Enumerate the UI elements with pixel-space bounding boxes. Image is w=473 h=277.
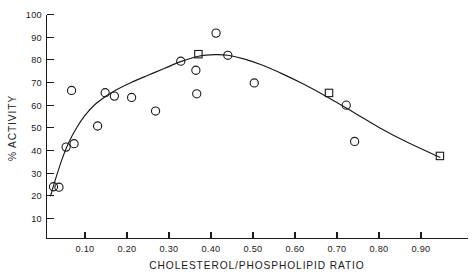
y-axis-tick-labels: 102030405060708090100 [26, 10, 42, 224]
data-point-circle [55, 183, 63, 191]
x-tick-label-0.40: 0.40 [201, 244, 220, 254]
y-tick-label-10: 10 [31, 214, 42, 224]
y-tick-label-90: 90 [31, 33, 42, 43]
axis-lines [47, 15, 469, 239]
x-tick-label-0.20: 0.20 [117, 244, 136, 254]
data-point-circle [110, 92, 118, 100]
y-tick-label-30: 30 [31, 169, 42, 179]
data-point-circle [94, 122, 102, 130]
x-tick-label-0.10: 0.10 [75, 244, 94, 254]
x-axis-tick-labels: 0.100.200.300.400.500.600.700.800.90 [75, 244, 430, 254]
data-point-square [325, 89, 332, 96]
figure-container: 102030405060708090100 0.100.200.300.400.… [0, 0, 473, 277]
data-point-circle [70, 140, 78, 148]
scatter-plot: 102030405060708090100 0.100.200.300.400.… [0, 0, 473, 277]
x-axis-ticks [85, 232, 421, 239]
data-point-circle [193, 90, 201, 98]
data-point-circle [212, 29, 220, 37]
fitted-curve-group [51, 55, 440, 196]
y-tick-label-40: 40 [31, 146, 42, 156]
data-point-circle [101, 89, 109, 97]
y-tick-label-20: 20 [31, 191, 42, 201]
x-tick-label-0.60: 0.60 [285, 244, 304, 254]
y-tick-label-50: 50 [31, 123, 42, 133]
x-axis-title: CHOLESTEROL/PHOSPHOLIPID RATIO [149, 260, 364, 271]
y-axis-title: % ACTIVITY [7, 95, 18, 161]
x-tick-label-0.80: 0.80 [369, 244, 388, 254]
data-point-circle [351, 137, 359, 145]
data-point-circle [250, 79, 258, 87]
x-tick-label-0.90: 0.90 [411, 244, 430, 254]
fitted-curve [51, 55, 440, 196]
y-tick-label-80: 80 [31, 55, 42, 65]
x-tick-label-0.70: 0.70 [327, 244, 346, 254]
data-point-circle [128, 93, 136, 101]
data-points-group [49, 29, 443, 191]
y-tick-label-60: 60 [31, 101, 42, 111]
y-tick-label-70: 70 [31, 78, 42, 88]
data-point-circle [192, 66, 200, 74]
x-tick-label-0.50: 0.50 [243, 244, 262, 254]
data-point-circle [151, 107, 159, 115]
x-tick-label-0.30: 0.30 [159, 244, 178, 254]
data-point-circle [67, 86, 75, 94]
y-tick-label-100: 100 [26, 10, 42, 20]
